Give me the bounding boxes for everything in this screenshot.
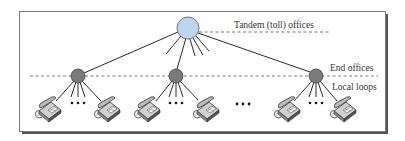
end-office-node-3 (309, 69, 323, 83)
tandem-office-node (177, 17, 199, 39)
network-diagram: Tandem (toll) offices End offices Local … (0, 0, 405, 141)
local-loops-label: Local loops (332, 82, 377, 92)
end-office-node-2 (169, 69, 183, 83)
end-offices-label: End offices (330, 63, 374, 73)
tandem-offices-label: Tandem (toll) offices (234, 20, 314, 31)
end-office-node-1 (71, 69, 85, 83)
